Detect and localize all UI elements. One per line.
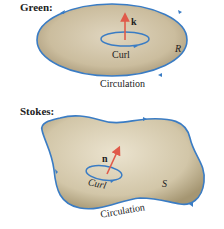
stokes-title: Stokes: bbox=[20, 105, 54, 117]
boundary-arrow-icon bbox=[178, 10, 182, 14]
region-label-r: R bbox=[175, 43, 181, 54]
green-title: Green: bbox=[20, 1, 53, 13]
boundary-arrow-icon bbox=[158, 73, 162, 77]
vector-label-k: k bbox=[131, 16, 137, 27]
vector-label-n: n bbox=[102, 153, 108, 164]
surface-label-s: S bbox=[162, 178, 167, 189]
stokes-surface bbox=[42, 116, 204, 209]
circulation-label: Circulation bbox=[100, 78, 145, 89]
curl-label: Curl bbox=[112, 49, 130, 60]
green-region bbox=[37, 4, 187, 77]
